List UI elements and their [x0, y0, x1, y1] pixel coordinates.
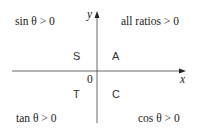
origin-label: 0	[87, 73, 93, 85]
y-axis-label: y	[86, 8, 93, 21]
y-axis-arrow-icon	[95, 11, 100, 18]
quadrant-letter-t: T	[73, 88, 80, 100]
quadrant-letter-s: S	[73, 50, 80, 62]
quadrant-letter-a: A	[112, 50, 120, 62]
q2-condition-label: sin θ > 0	[15, 15, 55, 27]
diagram-canvas: y x 0 S A T C sin θ > 0 all ratios > 0 t…	[0, 0, 197, 136]
cast-rule-diagram: y x 0 S A T C sin θ > 0 all ratios > 0 t…	[0, 0, 197, 136]
quadrant-letter-c: C	[112, 88, 120, 100]
q1-condition-label: all ratios > 0	[121, 15, 179, 27]
q4-condition-label: cos θ > 0	[138, 112, 180, 124]
x-axis-label: x	[179, 73, 186, 85]
q3-condition-label: tan θ > 0	[16, 112, 57, 124]
